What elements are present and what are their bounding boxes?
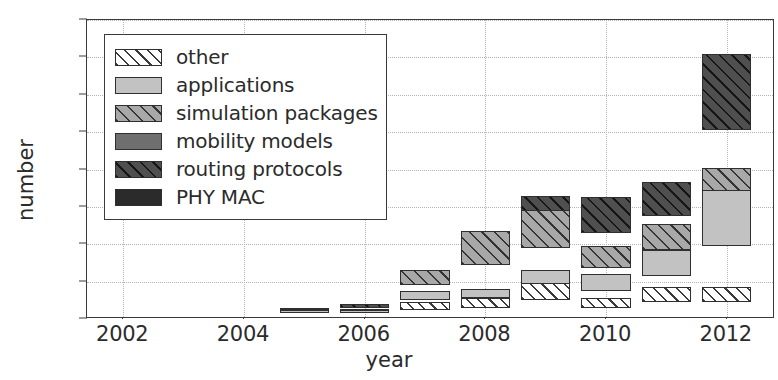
bar-2007: [400, 280, 449, 317]
bar-segment-simulation: [400, 270, 449, 285]
x-tick-label: 2010: [550, 322, 660, 346]
bar-segment-applications: [702, 190, 751, 246]
legend-item-mobility: mobility models: [115, 127, 376, 155]
stacked-bar-chart: number year 020406080100120140160 200220…: [0, 0, 778, 380]
legend-swatch-other: [115, 49, 162, 66]
bar-segment-applications: [400, 291, 449, 300]
legend-swatch-routing: [115, 161, 162, 178]
bar-segment-simulation: [642, 224, 691, 250]
legend-label-phymac: PHY MAC: [176, 185, 265, 209]
bar-segment-simulation: [521, 210, 570, 247]
x-tick-label: 2012: [671, 322, 778, 346]
legend-swatch-mobility: [115, 133, 162, 150]
legend-swatch-applications: [115, 77, 162, 94]
legend-label-simulation: simulation packages: [176, 101, 378, 125]
bar-segment-applications: [280, 310, 329, 314]
bar-segment-applications: [461, 289, 510, 298]
bar-segment-applications: [642, 250, 691, 276]
legend-label-applications: applications: [176, 73, 294, 97]
bar-segment-applications: [581, 274, 630, 291]
bar-2010: [581, 233, 630, 317]
bar-segment-other: [702, 287, 751, 302]
bar-2005: [280, 310, 329, 317]
bar-2009: [521, 216, 570, 317]
gridline-horizontal: [87, 20, 773, 21]
legend-label-other: other: [176, 45, 228, 69]
legend-item-other: other: [115, 43, 376, 71]
x-tick-label: 2002: [67, 322, 177, 346]
legend-item-routing: routing protocols: [115, 155, 376, 183]
chart-legend: otherapplicationssimulation packagesmobi…: [104, 34, 387, 220]
legend-label-mobility: mobility models: [176, 129, 333, 153]
bar-segment-simulation: [461, 231, 510, 265]
bar-segment-other: [461, 298, 510, 307]
bar-segment-other: [400, 302, 449, 309]
bar-segment-routing: [581, 197, 630, 233]
bar-segment-routing: [702, 54, 751, 131]
bar-segment-routing: [340, 304, 389, 308]
bar-segment-other: [521, 283, 570, 300]
bar-segment-routing: [642, 182, 691, 216]
legend-item-phymac: PHY MAC: [115, 183, 376, 211]
x-tick-label: 2006: [309, 322, 419, 346]
x-tick-label: 2004: [188, 322, 298, 346]
bar-segment-other: [642, 287, 691, 302]
bar-2012: [702, 106, 751, 317]
bar-2011: [642, 216, 691, 317]
bar-2006: [340, 308, 389, 317]
bar-segment-other: [581, 298, 630, 307]
bar-segment-simulation: [581, 246, 630, 268]
legend-label-routing: routing protocols: [176, 157, 342, 181]
bar-segment-applications: [340, 310, 389, 314]
legend-swatch-phymac: [115, 189, 162, 206]
legend-item-applications: applications: [115, 71, 376, 99]
legend-swatch-simulation: [115, 105, 162, 122]
bar-2008: [461, 246, 510, 317]
legend-item-simulation: simulation packages: [115, 99, 376, 127]
y-axis-label: number: [14, 110, 38, 250]
x-axis-label: year: [0, 348, 778, 372]
x-tick-label: 2008: [429, 322, 539, 346]
